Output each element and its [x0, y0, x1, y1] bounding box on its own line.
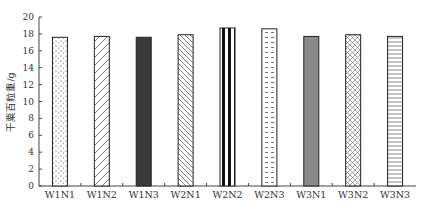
x-tick-label: W2N1 — [171, 189, 201, 200]
bar-w3n1 — [304, 36, 319, 186]
bar-w3n2 — [346, 35, 361, 186]
x-tick-label: W1N3 — [129, 189, 159, 200]
x-tick-label: W1N2 — [87, 189, 117, 200]
bar-w2n3 — [262, 29, 277, 186]
y-tick-label: 10 — [23, 97, 35, 107]
y-tick-label: 6 — [28, 130, 34, 140]
bar-w1n1 — [52, 37, 67, 186]
x-tick-label: W3N2 — [338, 189, 368, 200]
y-axis-label: 干粟百粒重/g — [5, 72, 16, 131]
y-tick-label: 14 — [23, 63, 35, 73]
y-tick-label: 18 — [23, 29, 35, 39]
bar-w1n2 — [94, 36, 109, 186]
bar-w1n3 — [136, 37, 151, 186]
x-tick-label: W2N2 — [212, 189, 242, 200]
bars — [52, 28, 402, 186]
y-tick-label: 20 — [23, 12, 35, 22]
x-tick-label: W3N1 — [296, 189, 326, 200]
y-tick-label: 2 — [28, 164, 34, 174]
y-tick-label: 8 — [28, 113, 34, 123]
bar-w2n2 — [220, 28, 235, 186]
y-tick-label: 12 — [23, 80, 34, 90]
bar-w3n3 — [388, 36, 403, 186]
y-tick-label: 16 — [23, 46, 35, 56]
y-tick-label: 4 — [28, 147, 34, 157]
x-tick-label: W3N3 — [380, 189, 410, 200]
bar-chart: 02468101214161820W1N1W1N2W1N3W2N1W2N2W2N… — [0, 0, 424, 212]
x-tick-label: W1N1 — [45, 189, 75, 200]
x-tick-label: W2N3 — [254, 189, 284, 200]
bar-w2n1 — [178, 35, 193, 186]
y-tick-label: 0 — [28, 181, 34, 191]
